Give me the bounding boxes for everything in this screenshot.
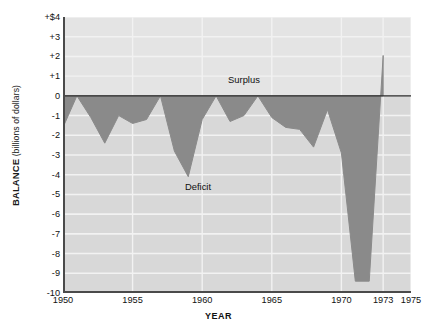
y-tick-label: +$4: [44, 12, 60, 22]
x-tick-label: 1960: [192, 295, 212, 305]
chart-svg: [63, 17, 411, 293]
x-tick-label: 1973: [373, 295, 393, 305]
y-tick-label: -5: [52, 189, 60, 199]
y-axis-tick-labels: +$4+3+2+10-1-2-3-4-5-6-7-8-9-10: [26, 15, 62, 293]
surplus-annotation: Surplus: [228, 74, 260, 85]
y-axis-title-unit: (billions of dollars): [11, 85, 21, 159]
x-tick-label: 1970: [331, 295, 351, 305]
x-axis-tick-labels: 1950195519601965197019731975: [0, 295, 437, 309]
x-tick-label: 1975: [401, 295, 421, 305]
y-tick-label: +2: [50, 51, 60, 61]
plot-area: [63, 17, 411, 293]
chart-figure: BALANCE (billions of dollars) +$4+3+2+10…: [0, 0, 437, 331]
y-axis-title-main: BALANCE: [10, 158, 21, 205]
y-tick-label: 0: [55, 91, 60, 101]
y-tick-label: -9: [52, 268, 60, 278]
x-tick-label: 1950: [53, 295, 73, 305]
x-axis-title: YEAR: [0, 311, 437, 321]
y-tick-label: -1: [52, 111, 60, 121]
y-tick-label: -3: [52, 150, 60, 160]
y-tick-label: -4: [52, 170, 60, 180]
y-tick-label: +1: [50, 71, 60, 81]
x-tick-label: 1965: [262, 295, 282, 305]
y-tick-label: -2: [52, 130, 60, 140]
y-tick-label: -6: [52, 209, 60, 219]
x-tick-label: 1955: [122, 295, 142, 305]
y-tick-label: +3: [50, 32, 60, 42]
y-tick-label: -7: [52, 229, 60, 239]
y-tick-label: -8: [52, 249, 60, 259]
deficit-annotation: Deficit: [185, 180, 211, 191]
y-axis-title: BALANCE (billions of dollars): [4, 0, 26, 290]
